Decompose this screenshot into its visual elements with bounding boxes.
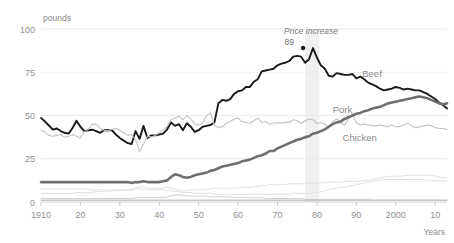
annotation-beef-peak-value: 89 [285, 37, 295, 47]
x-tick-label-60: 60 [233, 210, 243, 220]
x-tick-label-10: 10 [430, 210, 440, 220]
x-axis-title: Years [424, 227, 445, 237]
series-line-chicken [41, 96, 447, 183]
axis-group: 025507510019102030405060708090200010 [20, 25, 440, 221]
x-tick-label-30: 30 [115, 210, 125, 220]
series-label-beef: Beef [362, 68, 382, 79]
labels-group: BeefPorkChickenPrice increase89poundsYea… [43, 13, 445, 237]
series-group [41, 48, 447, 200]
gridlines-group [41, 29, 447, 202]
meat-consumption-line-chart: 025507510019102030405060708090200010 Bee… [0, 0, 454, 243]
y-tick-label-75: 75 [25, 68, 35, 78]
x-tick-label-40: 40 [154, 210, 164, 220]
x-tick-label-90: 90 [351, 210, 361, 220]
chart-container: 025507510019102030405060708090200010 Bee… [0, 0, 454, 243]
y-axis-title: pounds [43, 13, 71, 23]
y-tick-label-0: 0 [30, 198, 35, 208]
y-tick-label-25: 25 [25, 154, 35, 164]
x-tick-label-50: 50 [194, 210, 204, 220]
x-tick-label-1910: 1910 [31, 210, 51, 220]
x-tick-label-80: 80 [312, 210, 322, 220]
beef-peak-marker [301, 46, 305, 50]
y-tick-label-50: 50 [25, 111, 35, 121]
x-tick-label-70: 70 [272, 210, 282, 220]
annotation-price-increase: Price increase [284, 26, 338, 36]
x-tick-label-2000: 2000 [386, 210, 406, 220]
x-tick-label-20: 20 [75, 210, 85, 220]
series-label-pork: Pork [333, 104, 353, 115]
series-label-chicken: Chicken [343, 132, 377, 143]
y-tick-label-100: 100 [20, 25, 35, 35]
